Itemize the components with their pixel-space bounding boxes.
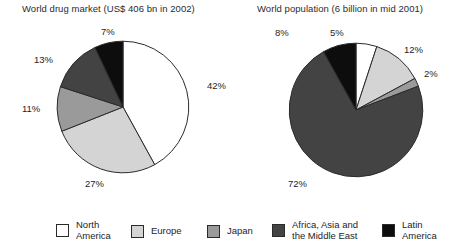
pie-label-pop-north-america: 5% bbox=[330, 27, 344, 38]
legend-item-africa-asia-middle-east[interactable]: Africa, Asia and the Middle East bbox=[272, 220, 358, 241]
pie-label-pop-japan: 2% bbox=[424, 68, 438, 79]
legend-swatch-europe bbox=[131, 225, 144, 238]
pie-chart-drug-market bbox=[56, 40, 190, 174]
pie-label-pop-africa: 72% bbox=[288, 178, 307, 189]
pie-label-pop-latin-america: 8% bbox=[275, 27, 289, 38]
chart-title-right: World population (6 billion in mid 2001) bbox=[257, 3, 423, 14]
pie-label-pop-europe: 12% bbox=[404, 44, 423, 55]
pie-label-drug-africa: 13% bbox=[34, 54, 53, 65]
legend-swatch-north-america bbox=[56, 224, 69, 237]
legend-label-north-america: North America bbox=[76, 220, 111, 241]
pie-label-drug-europe: 27% bbox=[85, 178, 104, 189]
legend-item-europe[interactable]: Europe bbox=[131, 225, 182, 238]
legend-item-latin-america[interactable]: Latin America bbox=[382, 220, 437, 241]
pie-chart-world-population bbox=[288, 42, 424, 178]
legend-swatch-japan bbox=[207, 225, 220, 238]
legend-swatch-africa-asia-middle-east bbox=[272, 224, 285, 237]
legend-item-north-america[interactable]: North America bbox=[56, 220, 111, 241]
pie-label-drug-latin-america: 7% bbox=[101, 26, 115, 37]
pie-label-drug-japan: 11% bbox=[22, 103, 40, 114]
legend-label-latin-america: Latin America bbox=[402, 220, 437, 241]
legend-label-europe: Europe bbox=[151, 226, 182, 237]
legend-item-japan[interactable]: Japan bbox=[207, 225, 253, 238]
pie-svg-world-population bbox=[288, 42, 424, 178]
pie-svg-drug-market bbox=[56, 40, 190, 174]
legend-label-africa-asia-middle-east: Africa, Asia and the Middle East bbox=[292, 220, 358, 241]
pie-label-drug-north-america: 42% bbox=[207, 80, 226, 91]
legend: North America Europe Japan Africa, Asia … bbox=[0, 216, 459, 250]
legend-label-japan: Japan bbox=[227, 226, 253, 237]
chart-title-left: World drug market (US$ 406 bn in 2002) bbox=[22, 3, 195, 14]
legend-swatch-latin-america bbox=[382, 224, 395, 237]
